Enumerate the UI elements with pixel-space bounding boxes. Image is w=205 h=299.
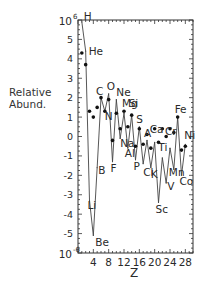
- cosmic-ray-dot: [176, 115, 180, 119]
- y-tick-label: 2: [67, 92, 73, 103]
- element-label-ti: Ti: [157, 141, 167, 153]
- element-label-ni: Ni: [184, 129, 195, 141]
- x-tick-label: 24: [163, 256, 177, 268]
- line-vertex: [154, 142, 155, 143]
- line-vertex: [85, 50, 86, 51]
- cosmic-ray-dot: [92, 115, 96, 119]
- element-label-be: Be: [95, 236, 109, 248]
- line-vertex: [116, 99, 117, 100]
- y-tick-label: 5: [67, 34, 73, 45]
- y-tick-label-power: 10: [59, 15, 72, 27]
- y-tick-label-exponent: 6: [73, 13, 78, 21]
- cosmic-ray-dot: [111, 139, 115, 143]
- element-label-sc: Sc: [156, 203, 169, 215]
- line-vertex: [108, 93, 109, 94]
- element-label-si: Si: [129, 97, 139, 109]
- cosmic-ray-dot: [84, 63, 88, 67]
- x-axis-label: Z: [130, 266, 138, 280]
- element-label-ca: Ca: [150, 123, 164, 135]
- element-label-li: Li: [88, 199, 97, 211]
- line-vertex: [93, 235, 94, 236]
- element-label-h: H: [84, 10, 92, 22]
- cosmic-ray-dot: [149, 146, 153, 150]
- cosmic-ray-dot: [184, 144, 188, 148]
- element-label-o: O: [107, 80, 115, 92]
- line-vertex: [143, 163, 144, 164]
- cosmic-ray-dot: [95, 106, 99, 110]
- y-tick-label: -3: [64, 189, 73, 200]
- element-label-he: He: [89, 45, 103, 57]
- cosmic-ray-dot: [141, 142, 145, 146]
- cosmic-ray-dot: [80, 51, 84, 55]
- cosmic-ray-dot: [115, 111, 119, 115]
- cosmic-ray-dot: [130, 113, 134, 117]
- element-label-k: K: [151, 168, 159, 180]
- cosmic-ray-dot: [107, 98, 111, 102]
- cosmic-ray-dot: [138, 127, 142, 131]
- element-label-cr: Cr: [165, 125, 177, 137]
- y-tick-label: -4: [64, 209, 73, 220]
- y-tick-label: 0: [67, 131, 73, 142]
- y-tick-label: 3: [67, 73, 73, 84]
- x-tick-label: 12: [117, 256, 130, 268]
- y-tick-label: 4: [67, 53, 73, 64]
- cosmic-ray-dot: [88, 109, 92, 113]
- element-label-v: V: [167, 180, 175, 192]
- element-label-fe: Fe: [175, 103, 187, 115]
- element-label-al: Al: [125, 147, 135, 159]
- element-label-n: N: [105, 110, 113, 122]
- element-label-b: B: [98, 164, 105, 176]
- x-tick-label: 8: [105, 256, 112, 268]
- x-tick-label: 20: [148, 256, 161, 268]
- x-tick-label: 4: [90, 256, 97, 268]
- element-label-s: S: [136, 113, 143, 125]
- cosmic-ray-dot: [122, 109, 126, 113]
- y-tick-label: -5: [64, 228, 73, 239]
- abundance-chart: 481216202428106543210-1-2-3-4-510-6 HHeL…: [0, 0, 205, 299]
- element-label-f: F: [111, 162, 117, 174]
- y-tick-label-power: 10: [59, 248, 72, 260]
- element-label-c: C: [96, 85, 103, 97]
- y-tick-label-exponent: -6: [73, 246, 81, 254]
- y-tick-label: 1: [67, 112, 73, 123]
- element-label-ne: Ne: [116, 86, 130, 98]
- x-tick-label: 28: [179, 256, 192, 268]
- y-tick-label: -2: [64, 170, 73, 181]
- line-vertex: [146, 140, 147, 141]
- cosmic-ray-dot: [118, 127, 122, 131]
- element-label-co: Co: [180, 175, 194, 187]
- line-vertex: [169, 148, 170, 149]
- line-vertex: [162, 157, 163, 158]
- y-tick-label: -1: [64, 150, 73, 161]
- element-label-p: P: [134, 160, 140, 172]
- cosmic-ray-dot: [180, 148, 184, 152]
- line-vertex: [81, 21, 82, 22]
- cosmic-ray-dot: [126, 125, 130, 129]
